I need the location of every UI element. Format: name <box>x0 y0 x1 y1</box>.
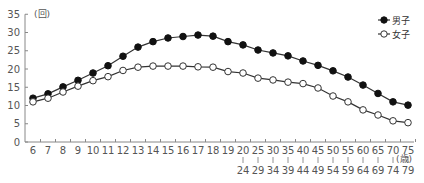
x-tick-label: 50 <box>327 145 340 156</box>
x-tick-label: 45 <box>312 145 325 156</box>
x-tick-label: 35 <box>282 145 295 156</box>
x-tick-label: 18 <box>207 145 220 156</box>
x-tick-label: 30 <box>267 145 280 156</box>
open-circle-data-point <box>300 80 307 87</box>
y-tick-label: 30 <box>7 27 20 38</box>
legend-item-male: 男子 <box>378 16 410 26</box>
x-tick-label-range-end: 69 <box>372 165 385 176</box>
series-line <box>33 35 408 105</box>
x-tick-label: 60 <box>357 145 370 156</box>
x-tick-label: 13 <box>132 145 145 156</box>
filled-circle-data-point <box>360 82 367 89</box>
open-circle-data-point <box>60 89 67 96</box>
open-circle-data-point <box>240 70 247 77</box>
filled-circle-data-point <box>330 68 337 75</box>
filled-circle-data-point <box>120 53 127 60</box>
legend-label-female: 女子 <box>392 29 410 40</box>
y-tick-label: 10 <box>7 100 20 111</box>
x-tick-label-range-end: 59 <box>342 165 355 176</box>
x-axis-unit-label: (歳) <box>396 153 412 164</box>
x-tick-label: 8 <box>60 145 66 156</box>
open-circle-data-point <box>180 63 187 70</box>
open-circle-data-point <box>165 63 172 70</box>
open-circle-data-point <box>210 64 217 71</box>
x-tick-label-range-end: 39 <box>282 165 295 176</box>
x-tick-label: 7 <box>45 145 51 156</box>
filled-circle-data-point <box>180 33 187 40</box>
filled-circle-marker-icon <box>381 17 387 23</box>
x-axis: 6789101112131415161718192024252930343539… <box>25 139 416 176</box>
open-circle-data-point <box>345 99 352 106</box>
x-tick-label: 55 <box>342 145 355 156</box>
y-tick-label: 0 <box>14 137 20 148</box>
filled-circle-data-point <box>405 102 412 109</box>
x-tick-label-range-end: 74 <box>387 165 400 176</box>
open-circle-data-point <box>75 83 82 90</box>
filled-circle-data-point <box>165 35 172 42</box>
open-circle-data-point <box>390 118 397 125</box>
x-tick-label: 65 <box>372 145 385 156</box>
x-tick-label: 15 <box>162 145 175 156</box>
open-circle-data-point <box>255 75 262 82</box>
open-circle-data-point <box>105 73 112 80</box>
filled-circle-data-point <box>255 47 262 54</box>
y-tick-label: 35 <box>7 9 20 20</box>
open-circle-data-point <box>330 93 337 100</box>
filled-circle-data-point <box>345 74 352 81</box>
open-circle-data-point <box>150 63 157 70</box>
filled-circle-data-point <box>390 99 397 106</box>
filled-circle-data-point <box>315 62 322 69</box>
filled-circle-data-point <box>375 90 382 97</box>
x-tick-label: 20 <box>237 145 250 156</box>
open-circle-data-point <box>315 85 322 92</box>
open-circle-data-point <box>120 67 127 74</box>
x-tick-label: 14 <box>147 145 160 156</box>
filled-circle-data-point <box>285 53 292 60</box>
y-tick-label: 15 <box>7 82 20 93</box>
filled-circle-data-point <box>300 58 307 65</box>
y-tick-label: 25 <box>7 45 20 56</box>
x-tick-label-range-end: 44 <box>297 165 310 176</box>
filled-circle-data-point <box>270 50 277 57</box>
open-circle-data-point <box>225 68 232 75</box>
open-circle-data-point <box>30 99 37 106</box>
line-chart: 05101520253035 6789101112131415161718192… <box>0 0 424 183</box>
x-tick-label: 6 <box>30 145 36 156</box>
filled-circle-data-point <box>135 44 142 51</box>
filled-circle-data-point <box>105 62 112 69</box>
open-circle-data-point <box>375 112 382 119</box>
x-tick-label: 25 <box>252 145 265 156</box>
series-female <box>30 63 412 126</box>
filled-circle-data-point <box>90 70 97 77</box>
open-circle-marker-icon <box>381 31 387 37</box>
legend: 男子 女子 <box>378 16 410 40</box>
filled-circle-data-point <box>240 42 247 49</box>
filled-circle-data-point <box>210 33 217 40</box>
open-circle-data-point <box>405 119 412 126</box>
x-tick-label-range-end: 64 <box>357 165 370 176</box>
x-tick-label-range-end: 79 <box>402 165 415 176</box>
filled-circle-data-point <box>225 38 232 45</box>
y-tick-label: 20 <box>7 64 20 75</box>
x-tick-label: 11 <box>102 145 115 156</box>
x-tick-label-range-end: 29 <box>252 165 265 176</box>
y-tick-label: 5 <box>14 118 20 129</box>
x-tick-label-range-end: 54 <box>327 165 340 176</box>
x-tick-label: 19 <box>222 145 235 156</box>
open-circle-data-point <box>195 64 202 71</box>
filled-circle-data-point <box>195 32 202 39</box>
series-layer <box>30 32 412 126</box>
open-circle-data-point <box>285 79 292 86</box>
legend-item-female: 女子 <box>378 29 410 40</box>
x-tick-label: 17 <box>192 145 205 156</box>
open-circle-data-point <box>360 107 367 114</box>
filled-circle-data-point <box>150 38 157 45</box>
open-circle-data-point <box>270 77 277 84</box>
x-tick-label: 9 <box>75 145 81 156</box>
x-tick-label: 12 <box>117 145 130 156</box>
series-male <box>30 32 412 109</box>
x-tick-label-range-end: 24 <box>237 165 250 176</box>
x-tick-label: 16 <box>177 145 190 156</box>
open-circle-data-point <box>45 95 52 102</box>
legend-label-male: 男子 <box>392 16 410 26</box>
